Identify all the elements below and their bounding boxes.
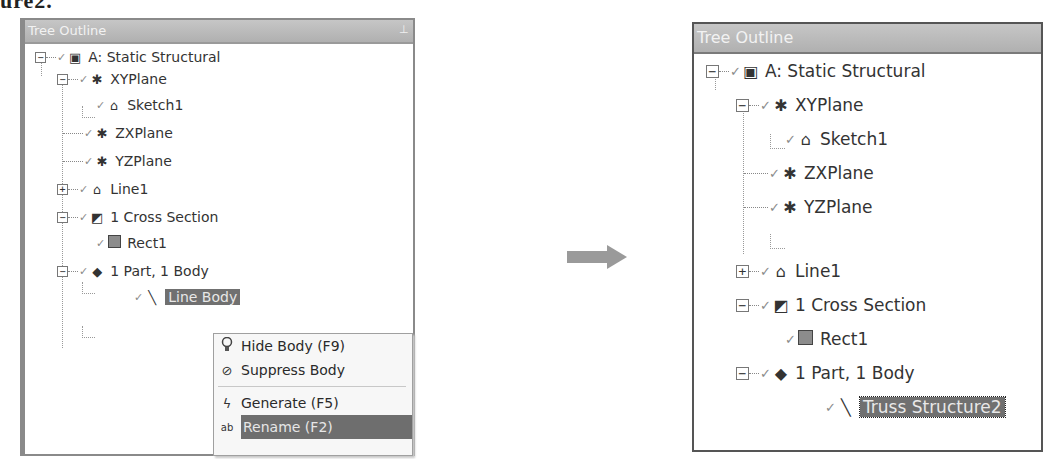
tree-connector: [749, 373, 759, 374]
collapse-toggle[interactable]: −: [736, 367, 749, 380]
tree-connector: [749, 305, 759, 306]
collapse-toggle[interactable]: −: [57, 74, 68, 85]
plane-icon: ✱: [89, 72, 105, 87]
node-label: 1 Cross Section: [795, 295, 926, 315]
collapse-toggle[interactable]: −: [57, 212, 68, 223]
tree-node-static-structural[interactable]: − ✓ ▣ A: Static Structural: [35, 46, 221, 68]
check-icon: ✓: [760, 264, 771, 279]
plane-icon: ✱: [94, 126, 110, 141]
tree-node-static-structural[interactable]: − ✓ ▣ A: Static Structural: [706, 58, 926, 84]
node-label: Sketch1: [820, 129, 888, 149]
tree-node-part-body[interactable]: − ✓ ◆ 1 Part, 1 Body: [736, 360, 915, 386]
tree-connector: [63, 133, 83, 134]
node-label: ZXPlane: [115, 125, 173, 141]
part-body-icon: ◆: [89, 264, 105, 279]
check-icon: ✓: [79, 183, 88, 196]
sketch-icon: ⌂: [797, 130, 815, 149]
menu-item-hide-body[interactable]: Hide Body (F9): [214, 334, 412, 358]
tree-node-rect1[interactable]: ✓ Rect1: [95, 232, 167, 254]
node-label: 1 Part, 1 Body: [110, 263, 209, 279]
check-icon: ✓: [760, 98, 771, 113]
tree-connector: [719, 71, 729, 72]
check-icon: ✓: [825, 400, 836, 415]
sketch-icon: ⌂: [106, 98, 122, 113]
rectangle-icon: [797, 330, 815, 349]
rename-icon: ab: [218, 422, 236, 433]
part-body-icon: ◆: [772, 364, 790, 383]
tree-connector: [68, 271, 78, 272]
tree-node-xyplane[interactable]: − ✓ ✱ XYPlane: [736, 92, 864, 118]
tree-node-truss-structure2[interactable]: ✓ ╲ Truss Structure2: [824, 394, 1005, 420]
collapse-toggle[interactable]: −: [736, 99, 749, 112]
tree-connector: [82, 106, 95, 118]
cross-section-icon: ◩: [772, 296, 790, 315]
check-icon: ✓: [96, 99, 105, 112]
menu-item-generate[interactable]: ϟ Generate (F5): [214, 391, 412, 415]
node-label: A: Static Structural: [88, 49, 220, 65]
check-icon: ✓: [769, 200, 780, 215]
menu-separator: [218, 386, 406, 387]
node-label: XYPlane: [795, 95, 864, 115]
collapse-toggle[interactable]: −: [706, 65, 719, 78]
tree-node-part-body[interactable]: − ✓ ◆ 1 Part, 1 Body: [57, 260, 209, 282]
node-label: A: Static Structural: [765, 61, 926, 81]
menu-item-suppress-body[interactable]: ⊘ Suppress Body: [214, 358, 412, 382]
collapse-toggle[interactable]: −: [57, 266, 68, 277]
node-label: YZPlane: [115, 153, 172, 169]
tree-node-line1[interactable]: + ✓ ⌂ Line1: [736, 258, 841, 284]
check-icon: ✓: [785, 132, 796, 147]
node-label-selected[interactable]: Truss Structure2: [860, 397, 1005, 417]
tree-node-line-body[interactable]: ✓ ╲ Line Body: [133, 286, 240, 308]
tree-node-line1[interactable]: + ✓ ⌂ Line1: [57, 178, 148, 200]
pin-icon[interactable]: ⊥: [399, 24, 407, 36]
tree-node-yzplane[interactable]: ✓ ✱ YZPlane: [744, 194, 873, 220]
tree-connector: [68, 217, 78, 218]
tree-node-xyplane[interactable]: − ✓ ✱ XYPlane: [57, 68, 167, 90]
collapse-toggle[interactable]: −: [35, 52, 46, 63]
tree-node-zxplane[interactable]: ✓ ✱ ZXPlane: [744, 160, 874, 186]
tree-connector: [749, 271, 759, 272]
expand-toggle[interactable]: +: [57, 184, 68, 195]
rectangle-icon: [106, 235, 122, 251]
tree-connector: [46, 57, 56, 58]
panel-header: Tree Outline: [694, 24, 1041, 54]
line-body-icon: ╲: [144, 290, 160, 305]
caption-fragment: ure2.: [0, 0, 53, 14]
menu-item-rename[interactable]: ab Rename (F2): [214, 415, 412, 439]
check-icon: ✓: [785, 332, 796, 347]
tree-node-yzplane[interactable]: ✓ ✱ YZPlane: [63, 150, 172, 172]
tree-node-cross-section[interactable]: − ✓ ◩ 1 Cross Section: [57, 206, 218, 228]
check-icon: ✓: [79, 265, 88, 278]
check-icon: ✓: [84, 127, 93, 140]
check-icon: ✓: [84, 155, 93, 168]
tree-connector: [82, 282, 95, 294]
check-icon: ✓: [769, 166, 780, 181]
node-label: 1 Part, 1 Body: [795, 363, 915, 383]
static-structural-icon: ▣: [742, 62, 760, 81]
plane-icon: ✱: [94, 154, 110, 169]
plane-icon: ✱: [781, 198, 799, 217]
menu-item-label: Generate (F5): [241, 395, 339, 411]
plane-icon: ✱: [781, 164, 799, 183]
node-label: YZPlane: [804, 197, 873, 217]
tree-node-cross-section[interactable]: − ✓ ◩ 1 Cross Section: [736, 292, 926, 318]
menu-item-label: Rename (F2): [241, 415, 412, 439]
tree-node-zxplane[interactable]: ✓ ✱ ZXPlane: [63, 122, 173, 144]
tree-outline-panel-after: Tree Outline − ✓ ▣ A: Static Structural …: [692, 22, 1043, 452]
tree-connector: [68, 189, 78, 190]
tree-node-rect1[interactable]: ✓ Rect1: [784, 326, 868, 352]
check-icon: ✓: [730, 64, 741, 79]
node-label: Rect1: [820, 329, 868, 349]
static-structural-icon: ▣: [67, 50, 83, 65]
tree-node-sketch1[interactable]: ✓ ⌂ Sketch1: [95, 94, 183, 116]
tree-connector: [770, 134, 785, 149]
panel-title: Tree Outline: [28, 23, 106, 38]
tree-connector: [749, 105, 759, 106]
collapse-toggle[interactable]: −: [736, 299, 749, 312]
node-label-selected[interactable]: Line Body: [165, 289, 240, 305]
tree-connector: [744, 173, 768, 174]
check-icon: ✓: [96, 237, 105, 250]
tree-node-sketch1[interactable]: ✓ ⌂ Sketch1: [784, 126, 888, 152]
expand-toggle[interactable]: +: [736, 265, 749, 278]
menu-item-label: Hide Body (F9): [241, 338, 345, 354]
